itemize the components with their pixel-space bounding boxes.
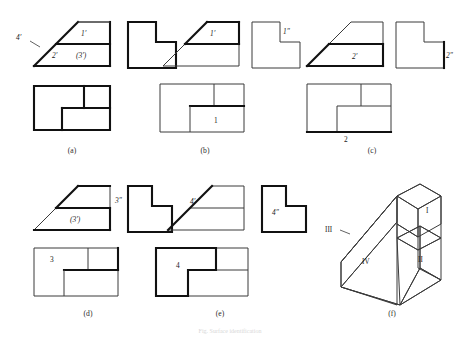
panel-e-side-view: 4″ [262,186,306,232]
side-outline [396,22,444,68]
label-f-III: III [325,226,333,234]
side-outline [128,186,172,232]
panel-f: I II III IV (f) [325,184,441,318]
label-c-2: 2 [344,135,348,144]
panel-label-e: (e) [216,309,225,318]
panel-label-b: (b) [201,146,210,155]
iso-bottom-front-edge [341,287,400,305]
label-d-3p: (3′) [70,215,81,224]
label-e-4: 4 [176,261,180,270]
panel-e-front-view: 4′ [168,186,244,230]
label-f-IV: IV [362,258,370,266]
label-f-I: I [426,207,429,215]
front-incline-lower [307,44,329,66]
panel-e: 4′ 4″ 4 (e) [156,186,306,318]
label-b-1: 1 [214,116,218,125]
side-outline [262,186,306,232]
panel-d-top-view: 3 [34,248,118,296]
panel-e-top-view: 4 [156,248,248,296]
label-c-2pp: 2″ [446,51,454,60]
panel-d-side-view: 3″ [114,186,172,232]
panel-b-top-view: 1 [160,84,244,132]
label-a-2p: 2′ [52,51,58,60]
leader-a-4p [30,41,40,47]
side-outline [128,22,176,68]
label-a-4p: 4′ [16,33,22,42]
label-a-1p: 1′ [81,29,87,38]
label-d-3pp: 3″ [114,196,123,205]
panel-label-f: (f) [388,309,396,318]
iso-block-I-top [397,184,441,209]
label-f-II: II [418,256,423,264]
panel-a-side-view [128,22,176,68]
label-d-3: 3 [50,255,54,264]
panel-a: 1′ 4′ 2′ (3′) (a) [16,22,176,155]
iso-face-II-lower-right [400,268,441,305]
label-c-2p: 2′ [352,52,358,61]
panel-label-a: (a) [68,146,77,155]
engineering-drawing-svg: 1′ 4′ 2′ (3′) (a) 1′ 1 [0,0,460,337]
panel-c-top-view: 2 [307,84,391,144]
panel-b-side-view: 1″ [252,22,300,68]
top-region4-bold [156,248,216,296]
label-b-1p: 1′ [210,29,216,38]
leader-f-III [340,230,350,234]
panel-c-front-view: 2′ [307,22,383,66]
panel-c-side-view: 2″ [396,22,454,68]
label-e-4pp: 4″ [272,208,280,217]
panel-a-top-view [34,86,110,130]
top-outline [34,248,118,296]
iso-face-II-front [397,226,420,305]
iso-block-I-face [418,196,441,237]
label-b-1pp: 1″ [283,27,291,36]
iso-face-IV-left-incline [341,196,397,287]
top-outline [156,248,248,296]
front-incline-seg [185,22,207,44]
figure-container: 1′ 4′ 2′ (3′) (a) 1′ 1 [0,0,460,337]
side-outline [252,22,300,68]
label-a-3p: (3′) [76,51,87,60]
panel-c: 2′ 2″ 2 (c) [307,22,454,155]
panel-label-d: (d) [84,309,93,318]
label-e-4p: 4′ [190,197,196,206]
panel-label-c: (c) [368,146,377,155]
panel-b: 1′ 1″ 1 (b) [160,22,300,155]
figure-caption: Fig. Surface identification [199,328,262,334]
top-outline [307,84,391,132]
panel-d-front-view: (3′) [34,186,110,230]
top-outline [160,84,244,132]
isometric-solid: I II III IV [325,184,441,305]
iso-silhouette [341,184,441,305]
iso-step-ledge [397,224,418,250]
front-incline-upper [56,186,78,208]
panel-d: (3′) 3″ 3 (d) [34,186,172,318]
panel-b-front-view: 1′ [163,22,239,66]
panel-a-front-view: 1′ 4′ 2′ (3′) [16,22,110,66]
iso-step-top [397,226,441,250]
